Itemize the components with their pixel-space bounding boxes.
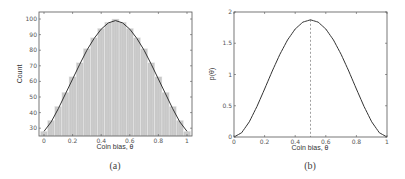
histogram-bar bbox=[90, 38, 97, 136]
y-tick-label: 2 bbox=[228, 8, 232, 15]
histogram-bar bbox=[55, 106, 62, 136]
figure: 00.20.40.60.81 30405060708090100 Coin bi… bbox=[0, 0, 405, 179]
y-tick-label: 30 bbox=[29, 124, 37, 131]
y-tick-label: 0 bbox=[228, 133, 232, 140]
y-tick-label: 1 bbox=[228, 71, 232, 78]
caption-b: (b) bbox=[304, 160, 316, 172]
x-tick-label: 0.2 bbox=[260, 138, 270, 145]
histogram-bar bbox=[98, 28, 105, 136]
y-tick-label: 0.5 bbox=[222, 102, 232, 109]
x-tick-label: 0 bbox=[42, 137, 46, 144]
histogram-bar bbox=[105, 22, 112, 136]
histogram-bar bbox=[155, 77, 162, 136]
x-tick-label: 0.8 bbox=[352, 138, 362, 145]
histogram-bar bbox=[141, 49, 148, 136]
histogram-bar bbox=[83, 49, 90, 136]
x-tick-label: 0.2 bbox=[68, 137, 78, 144]
y-axis-label-a: Count bbox=[16, 65, 23, 84]
y-tick-label: 60 bbox=[29, 77, 37, 84]
histogram-bar bbox=[69, 77, 76, 136]
caption-a: (a) bbox=[109, 160, 120, 172]
x-tick-label: 1 bbox=[385, 138, 389, 145]
y-tick-label: 100 bbox=[26, 15, 38, 22]
y-tick-label: 90 bbox=[29, 31, 37, 38]
y-axis-label-b: p(θ) bbox=[208, 68, 216, 80]
histogram-bar bbox=[126, 28, 133, 136]
x-tick-label: 0 bbox=[232, 138, 236, 145]
y-ticks-b: 00.511.52 bbox=[222, 8, 387, 140]
x-tick-label: 0.8 bbox=[154, 137, 164, 144]
histogram-bar bbox=[169, 106, 176, 136]
histogram-bars bbox=[40, 19, 190, 136]
axes-frame-b bbox=[234, 12, 387, 137]
x-tick-label: 1 bbox=[185, 137, 189, 144]
y-tick-label: 80 bbox=[29, 46, 37, 53]
histogram-bar bbox=[119, 22, 126, 136]
y-tick-label: 70 bbox=[29, 62, 37, 69]
y-tick-label: 50 bbox=[29, 93, 37, 100]
histogram-bar bbox=[112, 19, 119, 136]
histogram-bar bbox=[133, 38, 140, 136]
chart-panel-b: 00.20.40.60.81 00.511.52 Coin bias, θ p(… bbox=[208, 8, 389, 172]
x-axis-label-a: Coin bias, θ bbox=[97, 143, 134, 150]
y-tick-label: 40 bbox=[29, 109, 37, 116]
histogram-bar bbox=[76, 63, 83, 136]
x-axis-label-b: Coin bias, θ bbox=[292, 144, 329, 151]
y-tick-label: 1.5 bbox=[222, 39, 232, 46]
chart-panel-a: 00.20.40.60.81 30405060708090100 Coin bi… bbox=[16, 12, 192, 172]
histogram-bar bbox=[148, 63, 155, 136]
